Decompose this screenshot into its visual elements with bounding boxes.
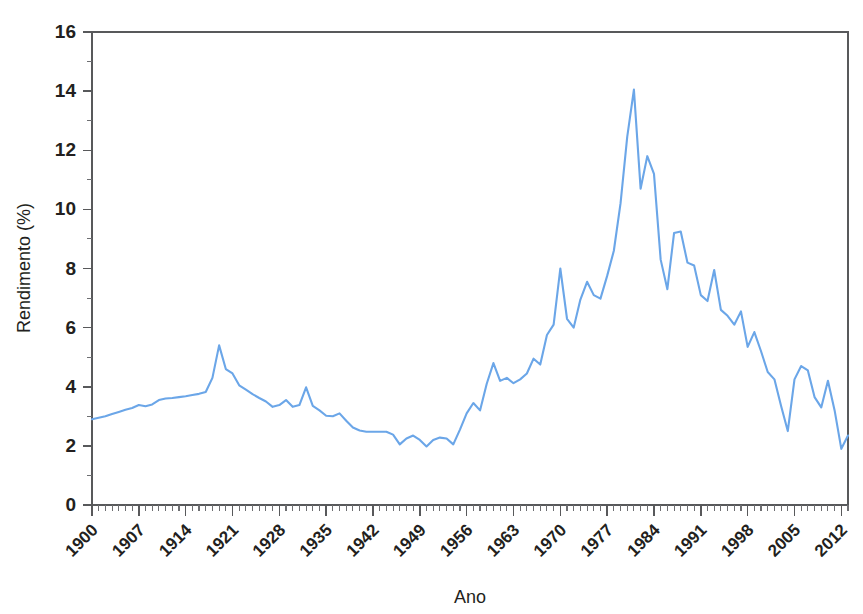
y-tick-label: 0: [65, 494, 76, 515]
y-tick-label: 14: [55, 80, 77, 101]
x-axis-title: Ano: [454, 587, 486, 607]
data-line-rendimento: [92, 90, 848, 449]
y-tick-label: 2: [65, 435, 76, 456]
y-tick-label: 12: [55, 139, 76, 160]
x-tick-label: 1991: [670, 520, 710, 560]
y-axis-ticks: [83, 32, 92, 505]
x-tick-label: 2005: [764, 520, 804, 560]
x-tick-label: 1956: [436, 520, 476, 560]
x-axis-ticks: [92, 505, 848, 516]
x-tick-label: 1907: [108, 520, 148, 560]
x-tick-label: 1921: [202, 520, 242, 560]
x-tick-label: 2012: [811, 520, 851, 560]
x-tick-label: 1935: [296, 520, 336, 560]
x-tick-label: 1998: [717, 520, 757, 560]
chart-canvas: 0246810121416 19001907191419211928193519…: [0, 0, 863, 614]
x-tick-label: 1949: [389, 520, 429, 560]
x-tick-label: 1963: [483, 520, 523, 560]
y-tick-label: 8: [65, 258, 76, 279]
plot-frame: [92, 32, 848, 505]
x-axis-tick-labels: 1900190719141921192819351942194919561963…: [62, 520, 851, 561]
x-tick-label: 1970: [530, 520, 570, 560]
x-tick-label: 1977: [577, 520, 617, 560]
line-chart: 0246810121416 19001907191419211928193519…: [0, 0, 863, 614]
y-tick-label: 6: [65, 317, 76, 338]
y-tick-label: 10: [55, 198, 76, 219]
y-axis-title: Rendimento (%): [14, 203, 34, 333]
data-series-group: [92, 90, 848, 449]
y-tick-label: 16: [55, 21, 76, 42]
x-tick-label: 1914: [155, 520, 196, 561]
x-tick-label: 1984: [624, 520, 665, 561]
y-tick-label: 4: [65, 376, 76, 397]
x-tick-label: 1928: [249, 520, 289, 560]
x-tick-label: 1900: [62, 520, 102, 560]
y-axis-tick-labels: 0246810121416: [55, 21, 77, 515]
x-tick-label: 1942: [343, 520, 383, 560]
